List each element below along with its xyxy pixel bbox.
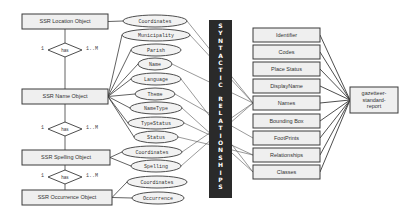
attribute-label: Coordinates <box>140 180 173 186</box>
cardinality-left: 1 <box>41 173 44 179</box>
bar-letter: I <box>219 132 221 139</box>
relationship-label: has <box>61 175 69 180</box>
entity-attribute-line <box>108 50 131 97</box>
entity-label: SSR Name Object <box>43 93 88 99</box>
attribute-label: Occurrence <box>143 196 173 202</box>
attribute-label: Theme <box>147 92 162 98</box>
attribute-label: TypeStatus <box>141 121 171 127</box>
field-report-line <box>320 69 350 100</box>
bar-letter: L <box>219 109 223 116</box>
report-label-line: standard- <box>362 97 385 103</box>
bar-letter: N <box>218 37 223 44</box>
attribute-ellipses: CoordinatesMunicipalityParishNameLanguag… <box>122 15 190 204</box>
report-field-label: Bounding Box <box>269 118 303 124</box>
bar-letter: C <box>218 59 223 66</box>
attribute-label: Status <box>147 135 165 141</box>
report-label-line: report <box>367 103 382 109</box>
field-report-line <box>320 100 350 155</box>
bar-letter: E <box>218 102 222 109</box>
attribute-label: Parish <box>147 48 165 54</box>
bar-letter: R <box>218 95 223 102</box>
report-field-label: Relationships <box>270 152 303 158</box>
cardinality-right: 1..M <box>86 46 98 52</box>
field-report-line <box>320 100 350 138</box>
field-report-line <box>320 100 350 103</box>
entity-attribute-line <box>110 158 131 167</box>
bar-letter: C <box>218 81 223 88</box>
relationship-label: has <box>61 48 69 53</box>
report-field-label: Codes <box>279 49 295 55</box>
attribute-label: Municipality <box>138 33 174 39</box>
entity-attribute-line <box>108 97 134 138</box>
bar-letter: I <box>219 74 221 81</box>
entity-label: SSR Spelling Object <box>41 154 91 160</box>
bar-letter: A <box>218 117 223 124</box>
bar-letter: S <box>218 22 222 29</box>
cardinality-right: 1..M <box>86 173 98 179</box>
attribute-label: NameType <box>144 106 168 112</box>
entity-attribute-line <box>112 198 132 199</box>
attribute-label: Spelling <box>144 164 168 170</box>
bar-letter: O <box>218 139 223 146</box>
report-field-boxes: IdentifierCodesPlace StatusDisplayNameNa… <box>253 28 320 179</box>
report-field-label: Names <box>278 100 296 106</box>
bar-letter: H <box>218 161 223 168</box>
attribute-label: Coordinates <box>135 150 168 156</box>
field-report-line <box>320 35 350 100</box>
entity-label: SSR Occurrence Object <box>38 194 97 200</box>
report-field-label: FootPrints <box>274 135 299 141</box>
entity-attribute-line <box>108 21 123 22</box>
report-field-label: Identifier <box>276 32 297 38</box>
attribute-label: Coordinates <box>138 19 171 25</box>
cardinality-right: 1..M <box>86 125 98 131</box>
attribute-label: Language <box>144 77 168 83</box>
bar-letter: I <box>219 169 221 176</box>
entity-attribute-line <box>108 94 135 97</box>
entity-attribute-line <box>112 182 127 198</box>
attribute-label: Name <box>149 62 161 68</box>
cardinality-left: 1 <box>41 125 44 131</box>
bar-letter: S <box>218 154 222 161</box>
relationship-label: has <box>61 127 69 132</box>
cardinality-left: 1 <box>41 46 44 52</box>
syntactic-relationships-bar: SYNTACTICRELATIONSHIPS <box>209 20 232 198</box>
report-field-label: Classes <box>277 169 297 175</box>
bar-letter: P <box>218 176 223 183</box>
bar-letter: S <box>218 183 222 190</box>
entity-label: SSR Location Object <box>39 18 91 24</box>
report-field-label: Place Status <box>271 66 302 72</box>
entity-attribute-line <box>110 152 122 158</box>
bar-letter: Y <box>217 29 223 36</box>
report-field-label: DisplayName <box>270 83 303 89</box>
bar-letter: A <box>218 52 223 59</box>
bar-letter: N <box>218 146 223 153</box>
report-label-line: gazetteer- <box>362 90 387 96</box>
gazetteer-report-box: gazetteer-standard-report <box>350 87 398 113</box>
er-diagram: SYNTACTICRELATIONSHIPS SSR Location Obje… <box>0 0 417 216</box>
